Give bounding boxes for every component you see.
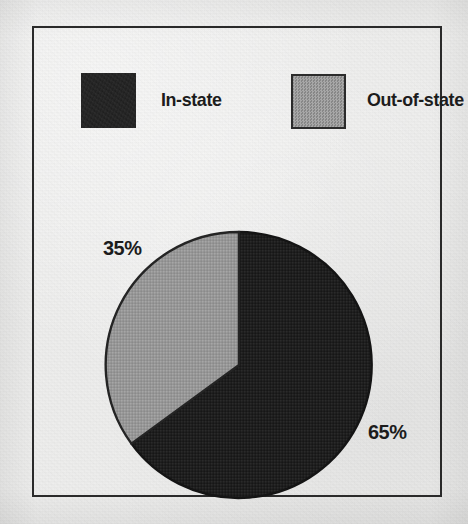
pie-label-in-state: 65% <box>368 420 407 444</box>
pie-chart <box>94 220 394 520</box>
legend-swatch-out-of-state <box>291 74 346 129</box>
legend-label-out-of-state: Out-of-state <box>367 89 464 111</box>
legend-swatch-in-state <box>81 73 136 128</box>
legend-label-in-state: In-state <box>161 89 222 111</box>
pie-label-out-of-state: 35% <box>103 236 142 260</box>
chart-frame-border: In-state Out-of-state <box>32 26 442 497</box>
chart-page: In-state Out-of-state <box>0 0 468 524</box>
